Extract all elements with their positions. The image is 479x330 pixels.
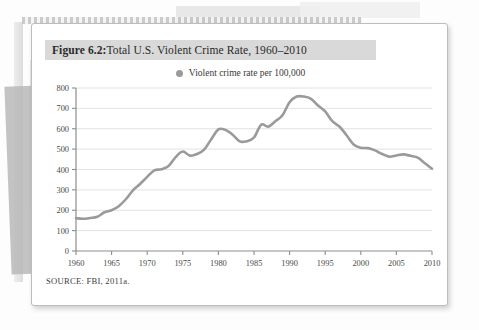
y-axis-tick-label: 300 bbox=[56, 186, 69, 195]
x-axis-tick-label: 1985 bbox=[246, 259, 263, 268]
y-axis-tick-label: 700 bbox=[56, 104, 69, 113]
x-axis-tick-label: 1980 bbox=[210, 259, 227, 268]
y-axis-tick-label: 200 bbox=[56, 206, 69, 215]
x-axis-tick-label: 1960 bbox=[68, 259, 85, 268]
x-axis-tick-label: 2000 bbox=[352, 259, 369, 268]
x-axis-tick-label: 1975 bbox=[174, 259, 191, 268]
y-axis-ticks-group: 0100200300400500600700800 bbox=[56, 84, 76, 256]
x-axis-tick-label: 1965 bbox=[103, 259, 120, 268]
violent-crime-rate-line bbox=[76, 96, 432, 219]
y-axis-tick-label: 500 bbox=[56, 145, 69, 154]
x-axis-tick-label: 2010 bbox=[424, 259, 441, 268]
y-axis-tick-label: 800 bbox=[56, 84, 69, 93]
gridlines-group bbox=[76, 88, 432, 231]
plot-area: 0100200300400500600700800 19601965197019… bbox=[32, 24, 449, 307]
y-axis-tick-label: 400 bbox=[56, 166, 69, 175]
x-axis-tick-label: 1990 bbox=[281, 259, 298, 268]
y-axis-tick-label: 600 bbox=[56, 125, 69, 134]
screenshot-stage: Figure 6.2: Total U.S. Violent Crime Rat… bbox=[0, 0, 479, 330]
y-axis-tick-label: 0 bbox=[65, 247, 69, 256]
source-note: SOURCE: FBI, 2011a. bbox=[46, 276, 130, 286]
x-axis-tick-label: 1995 bbox=[317, 259, 334, 268]
line-chart-svg: 0100200300400500600700800 19601965197019… bbox=[32, 24, 449, 307]
y-axis-tick-label: 100 bbox=[56, 227, 69, 236]
x-axis-tick-label: 1970 bbox=[139, 259, 156, 268]
background-artifact-top-block-2 bbox=[300, 2, 420, 18]
x-axis-tick-label: 2005 bbox=[388, 259, 405, 268]
figure-card: Figure 6.2: Total U.S. Violent Crime Rat… bbox=[31, 23, 448, 306]
x-axis-ticks-group: 1960196519701975198019851990199520002005… bbox=[68, 251, 441, 268]
